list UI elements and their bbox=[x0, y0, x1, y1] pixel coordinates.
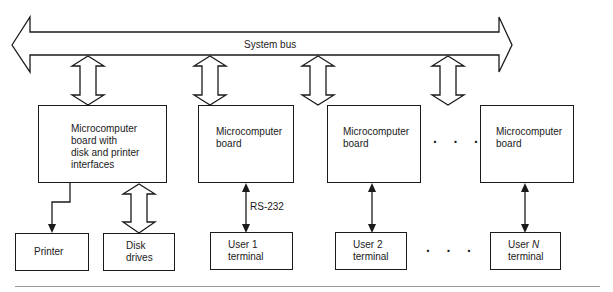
board-n-label: Microcomputer board bbox=[496, 126, 562, 150]
disk-drives-label: Disk drives bbox=[126, 240, 153, 264]
terminals-ellipsis: · · · bbox=[426, 245, 478, 257]
bus-link-board-1 bbox=[72, 56, 104, 105]
user-n-prefix: User bbox=[508, 239, 532, 250]
board-2-label: Microcomputer board bbox=[216, 126, 282, 150]
system-bus-label: System bus bbox=[244, 39, 296, 51]
user-n-variable: N bbox=[532, 239, 539, 250]
board-2: Microcomputer board bbox=[198, 105, 294, 183]
board-3: Microcomputer board bbox=[327, 105, 421, 183]
rs232-label: RS-232 bbox=[250, 201, 284, 213]
boards-ellipsis: · · · bbox=[433, 136, 485, 148]
disk-drives-box: Disk drives bbox=[103, 233, 175, 271]
bottom-rule bbox=[15, 286, 600, 287]
user-n-terminal-label: User Nterminal bbox=[508, 239, 544, 263]
user-2-terminal-box: User 2 terminal bbox=[335, 232, 407, 270]
printer-link bbox=[52, 183, 70, 226]
user-n-arrowhead-up bbox=[521, 183, 529, 192]
board-3-label: Microcomputer board bbox=[343, 126, 409, 150]
board-1: Microcomputer board with disk and printe… bbox=[38, 105, 167, 183]
user-1-terminal-box: User 1 terminal bbox=[210, 232, 293, 270]
bus-link-board-n bbox=[432, 56, 464, 105]
printer-arrowhead bbox=[48, 224, 56, 233]
board-1-label: Microcomputer board with disk and printe… bbox=[71, 123, 139, 171]
user-n-suffix: terminal bbox=[508, 251, 544, 262]
bus-link-board-3 bbox=[302, 56, 334, 105]
bus-link-board-2 bbox=[194, 56, 226, 105]
user-n-terminal-box: User Nterminal bbox=[490, 232, 561, 270]
user-1-terminal-label: User 1 terminal bbox=[228, 239, 264, 263]
printer-label: Printer bbox=[34, 246, 63, 258]
user-2-terminal-label: User 2 terminal bbox=[353, 239, 389, 263]
user-2-arrowhead-up bbox=[368, 183, 376, 192]
rs232-arrowhead-up bbox=[242, 183, 250, 192]
board-n: Microcomputer board bbox=[480, 105, 574, 183]
disk-drives-link bbox=[123, 184, 155, 233]
printer-box: Printer bbox=[15, 233, 89, 271]
